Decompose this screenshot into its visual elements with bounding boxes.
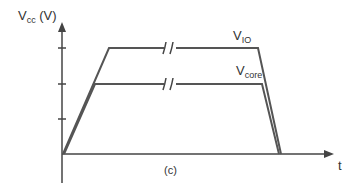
break-marker-vcore	[163, 78, 176, 90]
y-axis-label: Vcc (V)	[18, 8, 57, 23]
y-axis-arrow-icon	[58, 22, 66, 32]
x-axis-label: t	[338, 158, 342, 173]
label-vcore: Vcore	[236, 63, 262, 78]
x-axis-arrow-icon	[324, 150, 334, 158]
curve-vcore	[64, 84, 279, 154]
power-sequence-diagram	[0, 0, 359, 186]
caption: (c)	[164, 164, 177, 176]
break-marker-vio	[163, 42, 176, 54]
label-vio: VIO	[233, 28, 251, 43]
